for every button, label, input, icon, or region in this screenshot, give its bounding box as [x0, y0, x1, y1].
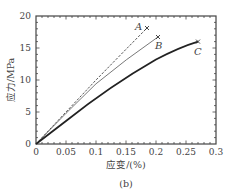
end-markers	[145, 26, 200, 44]
curve-b	[36, 37, 158, 144]
label-c: C	[194, 46, 202, 57]
y-minor-ticks	[36, 22, 216, 137]
y-tick-0: 0	[25, 139, 31, 149]
x-tick-01: 0.1	[89, 147, 103, 157]
stress-strain-chart: 0 5 10 15 20 0 0.05 0.1 0.15 0.2 0.25 0.…	[0, 0, 231, 195]
y-tick-20: 20	[20, 11, 32, 21]
label-b: B	[154, 40, 162, 51]
y-tick-5: 5	[25, 107, 31, 117]
x-tick-015: 0.15	[116, 147, 136, 157]
marker-b-icon	[156, 35, 160, 39]
marker-a-icon	[145, 26, 149, 30]
x-tick-02: 0.2	[149, 147, 163, 157]
x-tick-03: 0.3	[209, 147, 224, 157]
x-minor-ticks	[42, 16, 210, 144]
x-axis-title: 应变/(%)	[106, 159, 146, 170]
y-axis-title: 应力/MPa	[5, 57, 16, 102]
x-tick-025: 0.25	[176, 147, 196, 157]
y-tick-15: 15	[20, 43, 32, 53]
curve-c	[36, 42, 198, 144]
figure-caption: (b)	[119, 178, 133, 189]
y-tick-10: 10	[20, 75, 32, 85]
plot-frame	[36, 16, 216, 144]
x-tick-0: 0	[33, 147, 39, 157]
x-tick-005: 0.05	[56, 147, 76, 157]
label-a: A	[134, 21, 142, 32]
